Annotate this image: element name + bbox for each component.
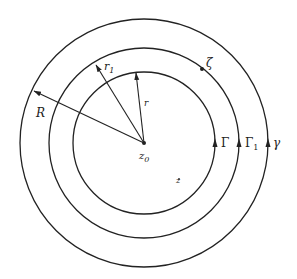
label-gamma: γ — [273, 136, 281, 150]
concentric-circles-diagram: R r1 r ζ z0 z Γ Γ1 γ — [0, 0, 297, 279]
label-z0: z0 — [138, 150, 149, 164]
label-Gamma1: Γ1 — [245, 136, 258, 152]
label-zeta: ζ — [206, 56, 214, 70]
center-point-z0 — [142, 141, 146, 145]
point-zeta — [200, 67, 204, 71]
arrow-up-icon — [213, 138, 218, 147]
label-R: R — [35, 106, 45, 120]
arrow-up-icon — [237, 138, 242, 147]
label-z: z — [175, 176, 181, 185]
arrow-up-icon — [266, 138, 271, 147]
label-r: r — [144, 98, 149, 108]
label-r1: r1 — [104, 60, 114, 75]
label-Gamma: Γ — [221, 136, 229, 150]
